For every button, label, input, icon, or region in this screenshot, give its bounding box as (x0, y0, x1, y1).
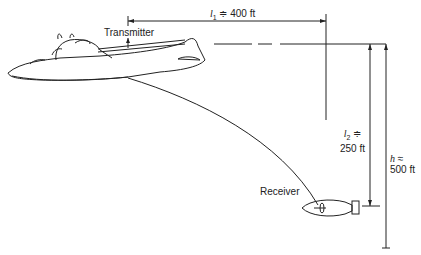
transmitter-label: Transmitter (104, 27, 154, 38)
l1-label: l1 ≑ 400 ft (210, 8, 255, 23)
receiver-label: Receiver (260, 186, 299, 197)
aircraft-drawing (8, 34, 205, 80)
l2-label: l2 ≑ 250 ft (340, 128, 365, 154)
receiver-drawing (302, 200, 359, 216)
h-label: h ≈ 500 ft (390, 153, 415, 175)
